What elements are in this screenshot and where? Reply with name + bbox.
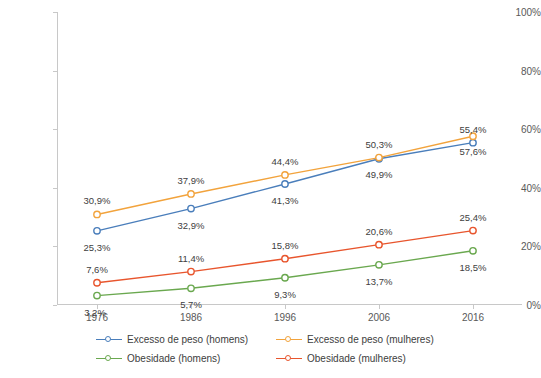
legend-label-obesidade-mulheres: Obesidade (mulheres) xyxy=(307,353,406,364)
legend-swatch-obesidade-homens xyxy=(96,358,122,360)
data-point-label: 32,9% xyxy=(178,219,205,230)
legend-item-obesidade-homens[interactable]: Obesidade (homens) xyxy=(96,349,276,368)
data-point-label: 44,4% xyxy=(272,155,299,166)
legend-item-excesso-homens[interactable]: Excesso de peso (homens) xyxy=(96,330,276,349)
legend-swatch-obesidade-mulheres xyxy=(276,358,302,360)
data-point-label: 49,9% xyxy=(366,168,393,179)
data-point-label: 9,3% xyxy=(274,288,296,299)
data-point-label: 13,7% xyxy=(366,275,393,286)
data-point[interactable] xyxy=(188,285,194,291)
data-point-label: 25,3% xyxy=(84,241,111,252)
data-point-label: 41,3% xyxy=(272,194,299,205)
legend-label-obesidade-homens: Obesidade (homens) xyxy=(127,353,220,364)
data-point[interactable] xyxy=(376,262,382,268)
data-point-label: 3,2% xyxy=(84,306,106,317)
data-point-label: 18,5% xyxy=(460,261,487,272)
data-point[interactable] xyxy=(376,154,382,160)
data-point[interactable] xyxy=(282,172,288,178)
data-point[interactable] xyxy=(94,211,100,217)
data-point-label: 50,3% xyxy=(366,138,393,149)
legend-marker xyxy=(105,355,111,361)
chart-legend: Excesso de peso (homens) Excesso de peso… xyxy=(96,330,456,368)
legend-label-excesso-mulheres: Excesso de peso (mulheres) xyxy=(307,334,434,345)
data-point[interactable] xyxy=(282,256,288,262)
data-point-label: 55,4% xyxy=(460,123,487,134)
legend-marker xyxy=(285,355,291,361)
data-point[interactable] xyxy=(470,227,476,233)
data-point-label: 20,6% xyxy=(366,225,393,236)
legend-marker xyxy=(285,336,291,342)
series-layer xyxy=(0,0,541,378)
data-point[interactable] xyxy=(282,275,288,281)
legend-item-excesso-mulheres[interactable]: Excesso de peso (mulheres) xyxy=(276,330,456,349)
data-point-label: 30,9% xyxy=(84,195,111,206)
data-point-label: 7,6% xyxy=(86,263,108,274)
data-point[interactable] xyxy=(188,205,194,211)
data-point[interactable] xyxy=(376,241,382,247)
data-point[interactable] xyxy=(94,228,100,234)
data-point-label: 11,4% xyxy=(178,252,204,263)
legend-swatch-excesso-mulheres xyxy=(276,339,302,341)
data-point-label: 15,8% xyxy=(272,239,299,250)
data-point-label: 25,4% xyxy=(460,211,487,222)
legend-item-obesidade-mulheres[interactable]: Obesidade (mulheres) xyxy=(276,349,456,368)
data-point[interactable] xyxy=(282,181,288,187)
legend-swatch-excesso-homens xyxy=(96,339,122,341)
chart-container: 100% 80% 60% 40% 20% 0% 1976 1986 1996 2… xyxy=(0,0,541,378)
data-point[interactable] xyxy=(188,268,194,274)
data-point[interactable] xyxy=(188,191,194,197)
data-point-label: 57,6% xyxy=(460,146,487,157)
legend-label-excesso-homens: Excesso de peso (homens) xyxy=(127,334,248,345)
data-point-label: 37,9% xyxy=(178,174,205,185)
data-point[interactable] xyxy=(94,280,100,286)
legend-marker xyxy=(105,336,111,342)
data-point-label: 5,7% xyxy=(180,299,202,310)
data-point[interactable] xyxy=(470,248,476,254)
data-point[interactable] xyxy=(94,292,100,298)
